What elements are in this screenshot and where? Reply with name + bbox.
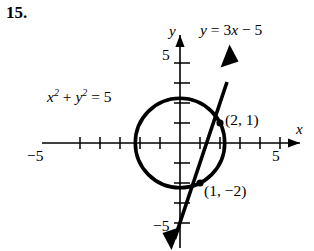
coordinate-plane-graph xyxy=(0,0,314,251)
y-axis-tick-label-5: 5 xyxy=(162,47,170,63)
point-label-2-1: (2, 1) xyxy=(225,112,259,128)
intersection-point-lower xyxy=(196,179,203,186)
y-axis-label: y xyxy=(169,24,176,39)
x-axis-tick-label-neg5: −5 xyxy=(27,148,44,164)
x-axis-label: x xyxy=(296,122,303,137)
intersection-point-upper xyxy=(216,119,223,126)
y-axis-tick-label-neg5: −5 xyxy=(153,218,170,234)
line-equation-label: y = 3x − 5 xyxy=(200,22,262,38)
line-curve xyxy=(175,82,228,239)
x-axis-arrow-icon xyxy=(288,138,300,147)
line-upper-arrow-icon xyxy=(221,45,239,68)
y-axis-arrow-icon xyxy=(175,35,184,47)
point-label-1-neg2: (1, −2) xyxy=(204,183,246,199)
circle-equation-label: x2 + y2 = 5 xyxy=(47,88,112,105)
x-axis-tick-label-5: 5 xyxy=(272,148,280,164)
figure-container: 15. xyxy=(0,0,314,251)
